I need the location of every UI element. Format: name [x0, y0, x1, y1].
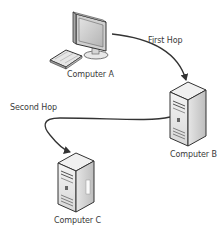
network-hop-diagram: Computer A First Hop Computer B Second H… [0, 0, 222, 233]
second-hop-label: Second Hop [10, 103, 57, 112]
computer-c-icon [58, 153, 94, 212]
computer-b-icon [170, 82, 206, 146]
second-hop-arrow [45, 117, 170, 152]
computer-b-label: Computer B [170, 150, 217, 159]
computer-a-icon [50, 12, 108, 69]
computer-c-label: Computer C [54, 216, 101, 225]
diagram-canvas [0, 0, 222, 233]
first-hop-label: First Hop [148, 36, 182, 45]
computer-a-label: Computer A [67, 70, 114, 79]
